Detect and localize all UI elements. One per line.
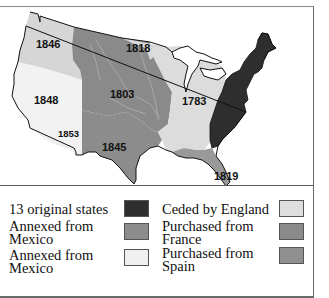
label-1783: 1783 <box>182 95 206 107</box>
legend-label-annexed-mexico-2: Annexed from Mexico <box>9 249 93 275</box>
label-1853: 1853 <box>58 128 79 139</box>
label-1819: 1819 <box>214 170 238 182</box>
legend-label-purchased-spain: Purchased from Spain <box>162 247 253 273</box>
label-1845: 1845 <box>102 141 126 153</box>
legend-label-purchased-france: Purchased from France <box>162 220 253 246</box>
label-1846: 1846 <box>36 38 60 50</box>
legend-swatch-annexed-mexico-1 <box>124 223 149 240</box>
label-1818: 1818 <box>126 42 150 54</box>
legend-swatch-purchased-france <box>279 223 304 240</box>
legend-label-ceded-by-england: Ceded by England <box>162 203 269 216</box>
legend-label-annexed-mexico-1: Annexed from Mexico <box>9 220 93 246</box>
legend-label-original-states: 13 original states <box>9 203 108 216</box>
label-1848: 1848 <box>34 94 58 106</box>
legend: 13 original states Annexed from Mexico A… <box>0 186 313 297</box>
us-territorial-map: 1846 1848 1853 1803 1818 1845 1783 1819 <box>0 7 313 186</box>
legend-swatch-original-states <box>124 200 149 217</box>
legend-swatch-purchased-spain <box>279 247 304 264</box>
legend-swatch-annexed-mexico-2 <box>124 249 149 266</box>
legend-swatch-ceded-by-england <box>279 200 304 217</box>
label-1803: 1803 <box>110 88 134 100</box>
